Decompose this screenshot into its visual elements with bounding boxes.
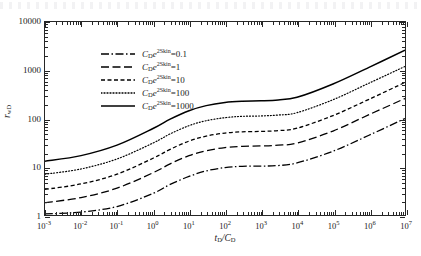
x-minor-tick [150, 212, 151, 215]
x-major-tick [262, 22, 263, 27]
x-minor-tick [251, 22, 252, 25]
x-minor-tick [279, 212, 280, 215]
x-minor-tick [345, 212, 346, 215]
x-minor-tick [186, 212, 187, 215]
x-minor-tick [67, 22, 68, 25]
x-minor-tick [259, 212, 260, 215]
y-minor-tick [45, 188, 48, 189]
x-minor-tick [179, 22, 180, 25]
x-minor-tick [367, 212, 368, 215]
x-minor-tick [345, 22, 346, 25]
y-minor-tick [45, 47, 48, 48]
x-minor-tick [184, 22, 185, 25]
x-major-tick [154, 22, 155, 27]
y-minor-tick [45, 37, 48, 38]
x-minor-tick [112, 22, 113, 25]
x-major-tick [298, 22, 299, 27]
x-minor-tick [171, 212, 172, 215]
y-minor-tick [402, 188, 405, 189]
x-minor-tick [273, 22, 274, 25]
x-minor-tick [288, 212, 289, 215]
x-minor-tick [363, 22, 364, 25]
x-major-tick [371, 22, 372, 27]
y-minor-tick [45, 122, 48, 123]
y-minor-tick [45, 170, 48, 171]
y-minor-tick [45, 96, 48, 97]
x-minor-tick [356, 212, 357, 215]
y-minor-tick [402, 73, 405, 74]
y-minor-tick [402, 139, 405, 140]
x-minor-tick [324, 212, 325, 215]
y-minor-tick [45, 105, 48, 106]
x-minor-tick [327, 22, 328, 25]
x-minor-tick [62, 212, 63, 215]
x-tick-label: 107 [400, 219, 412, 231]
y-minor-tick [402, 122, 405, 123]
x-minor-tick [360, 212, 361, 215]
legend-item[interactable]: CDe2Skin=100 [101, 86, 194, 99]
x-tick-label: 101 [183, 219, 195, 231]
y-minor-tick [402, 145, 405, 146]
y-minor-tick [45, 139, 48, 140]
y-minor-tick [402, 96, 405, 97]
x-minor-tick [114, 212, 115, 215]
x-minor-tick [73, 22, 74, 25]
x-minor-tick [143, 22, 144, 25]
x-minor-tick [399, 212, 400, 215]
legend-item[interactable]: CDe2Skin=1 [101, 60, 194, 73]
x-minor-tick [98, 212, 99, 215]
x-major-tick [226, 22, 227, 27]
y-minor-tick [402, 37, 405, 38]
y-minor-tick [402, 78, 405, 79]
x-tick-label: 104 [292, 219, 304, 231]
x-minor-tick [148, 22, 149, 25]
x-major-tick [117, 210, 118, 215]
x-major-tick [371, 210, 372, 215]
x-minor-tick [175, 212, 176, 215]
legend-label: CDe2Skin=0.1 [142, 48, 187, 59]
x-major-tick [190, 210, 191, 215]
y-minor-tick [402, 30, 405, 31]
y-minor-tick [45, 78, 48, 79]
x-minor-tick [114, 22, 115, 25]
x-minor-tick [207, 22, 208, 25]
x-minor-tick [62, 22, 63, 25]
x-minor-tick [284, 22, 285, 25]
legend-line-sample-100 [101, 88, 135, 98]
y-minor-tick [45, 75, 48, 76]
x-minor-tick [254, 212, 255, 215]
x-minor-tick [164, 212, 165, 215]
y-minor-tick [45, 127, 48, 128]
legend-line-sample-10 [101, 75, 135, 85]
y-minor-tick [45, 179, 48, 180]
top-artifact-strip [0, 2, 421, 9]
x-minor-tick [309, 212, 310, 215]
y-axis-title: rwD [2, 105, 12, 118]
y-major-tick [400, 168, 405, 169]
legend-label: CDe2Skin=100 [142, 87, 189, 98]
curve-layer [45, 22, 405, 215]
y-minor-tick [402, 130, 405, 131]
x-minor-tick [171, 22, 172, 25]
x-minor-tick [393, 22, 394, 25]
x-minor-tick [327, 212, 328, 215]
x-minor-tick [251, 212, 252, 215]
x-minor-tick [237, 22, 238, 25]
x-minor-tick [293, 212, 294, 215]
legend-item[interactable]: CDe2Skin=10 [101, 73, 194, 86]
y-minor-tick [45, 30, 48, 31]
x-minor-tick [320, 22, 321, 25]
x-minor-tick [103, 22, 104, 25]
x-minor-tick [175, 22, 176, 25]
legend-item[interactable]: CDe2Skin=0.1 [101, 47, 194, 60]
x-minor-tick [222, 212, 223, 215]
y-major-tick [45, 120, 50, 121]
x-minor-tick [76, 212, 77, 215]
legend-item[interactable]: CDe2Skin=1000 [101, 99, 194, 112]
y-axis-tick-labels: 110100100010000 [0, 21, 44, 216]
y-minor-tick [45, 33, 48, 34]
x-minor-tick [107, 22, 108, 25]
x-minor-tick [257, 212, 258, 215]
x-minor-tick [215, 212, 216, 215]
x-minor-tick [331, 22, 332, 25]
